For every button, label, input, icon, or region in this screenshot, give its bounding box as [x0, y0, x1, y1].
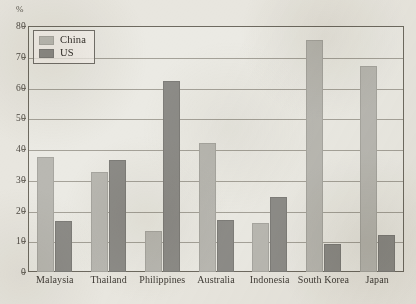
bar-group: [91, 26, 126, 272]
chart-legend: China US: [33, 30, 95, 64]
legend-item-china: China: [39, 34, 86, 47]
bar-philippines-us: [163, 81, 180, 272]
bar-australia-us: [217, 220, 234, 272]
y-axis-tick-mark: [22, 241, 26, 242]
x-axis: MalaysiaThailandPhilippinesAustraliaIndo…: [28, 274, 404, 296]
bar-group: [360, 26, 395, 272]
bar-japan-china: [360, 66, 377, 272]
y-axis: 01020304050607080: [0, 26, 26, 272]
legend-swatch-us-icon: [39, 49, 54, 58]
y-axis-tick-mark: [22, 211, 26, 212]
y-axis-tick-mark: [22, 26, 26, 27]
y-axis-tick-mark: [22, 180, 26, 181]
bar-thailand-us: [109, 160, 126, 272]
y-axis-tick-mark: [22, 57, 26, 58]
bar-malaysia-china: [37, 157, 54, 272]
bar-group: [199, 26, 234, 272]
bar-group: [252, 26, 287, 272]
bar-philippines-china: [145, 231, 162, 273]
legend-item-us: US: [39, 47, 86, 60]
y-axis-tick-mark: [22, 272, 26, 273]
x-axis-tick-label: Malaysia: [36, 274, 73, 285]
x-axis-tick-label: Thailand: [90, 274, 126, 285]
bar-indonesia-us: [270, 197, 287, 272]
bar-malaysia-us: [55, 221, 72, 272]
x-axis-tick-label: Indonesia: [250, 274, 290, 285]
bar-australia-china: [199, 143, 216, 272]
bar-group: [306, 26, 341, 272]
y-axis-tick-mark: [22, 149, 26, 150]
x-axis-tick-label: Australia: [197, 274, 235, 285]
bar-group: [145, 26, 180, 272]
y-axis-unit-label: %: [16, 4, 24, 14]
legend-label-us: US: [60, 48, 74, 59]
x-axis-tick-label: South Korea: [298, 274, 349, 285]
legend-label-china: China: [60, 35, 86, 46]
x-axis-tick-label: Japan: [366, 274, 389, 285]
x-axis-tick-label: Philippines: [139, 274, 185, 285]
bar-japan-us: [378, 235, 395, 272]
y-axis-tick-mark: [22, 88, 26, 89]
y-axis-tick-mark: [22, 118, 26, 119]
bar-chart: % 01020304050607080 MalaysiaThailandPhil…: [0, 0, 416, 304]
bar-indonesia-china: [252, 223, 269, 272]
bar-south-korea-china: [306, 40, 323, 272]
bar-south-korea-us: [324, 244, 341, 272]
bar-thailand-china: [91, 172, 108, 272]
legend-swatch-china-icon: [39, 36, 54, 45]
